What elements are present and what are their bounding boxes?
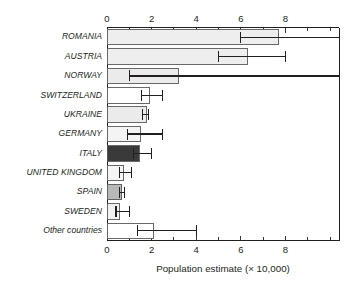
bar bbox=[107, 107, 146, 123]
category-label: Other countries bbox=[43, 225, 102, 235]
category-label: GERMANY bbox=[59, 128, 104, 138]
category-label: UNITED KINGDOM bbox=[27, 167, 103, 177]
x-axis-title: Population estimate (× 10,000) bbox=[156, 263, 290, 274]
category-label: SWEDEN bbox=[64, 206, 103, 216]
bottom-tick-label: 6 bbox=[238, 244, 243, 255]
bottom-tick-label: 8 bbox=[283, 244, 288, 255]
bar-chart-figure: 02468 02468 ROMANIAAUSTRIANORWAYSWITZERL… bbox=[0, 0, 355, 285]
bottom-axis-tick-labels: 02468 bbox=[104, 244, 288, 255]
category-label: ITALY bbox=[80, 148, 104, 158]
category-label: NORWAY bbox=[64, 70, 103, 80]
category-label: SPAIN bbox=[77, 186, 103, 196]
chart-canvas: 02468 02468 ROMANIAAUSTRIANORWAYSWITZERL… bbox=[0, 0, 355, 285]
top-tick-label: 2 bbox=[149, 13, 154, 24]
top-tick-label: 6 bbox=[238, 13, 243, 24]
top-axis-tick-labels: 02468 bbox=[104, 13, 288, 24]
category-labels-group: ROMANIAAUSTRIANORWAYSWITZERLANDUKRAINEGE… bbox=[27, 31, 104, 235]
category-label: UKRAINE bbox=[64, 109, 102, 119]
top-tick-label: 8 bbox=[283, 13, 288, 24]
bottom-tick-label: 2 bbox=[149, 244, 154, 255]
bottom-tick-label: 0 bbox=[104, 244, 109, 255]
category-label: AUSTRIA bbox=[64, 51, 103, 61]
top-tick-label: 0 bbox=[104, 13, 109, 24]
top-tick-label: 4 bbox=[194, 13, 199, 24]
category-label: ROMANIA bbox=[62, 31, 102, 41]
category-label: SWITZERLAND bbox=[40, 90, 102, 100]
bottom-tick-label: 4 bbox=[194, 244, 199, 255]
